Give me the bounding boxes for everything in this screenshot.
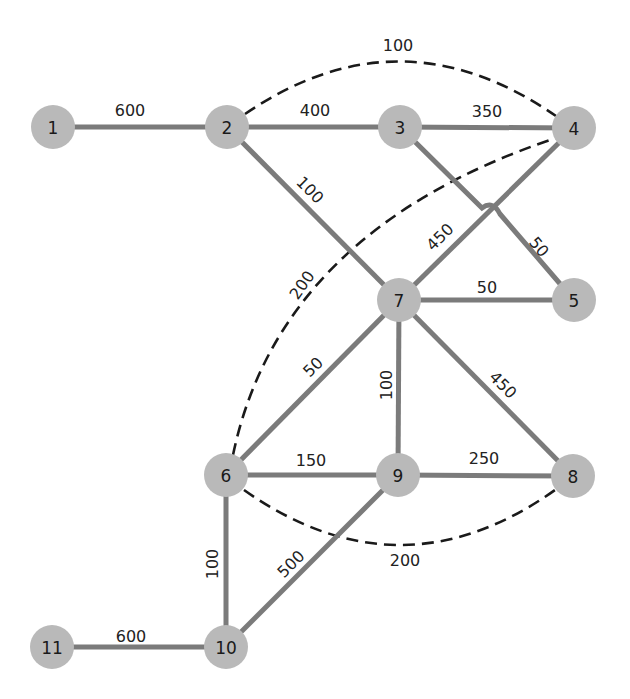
svg-text:10: 10	[215, 638, 237, 658]
weight-6-9: 150	[296, 451, 327, 470]
svg-text:7: 7	[394, 291, 405, 311]
node-6: 6	[204, 453, 248, 497]
node-10: 10	[204, 625, 248, 669]
weight-7-9: 100	[377, 370, 396, 401]
weight-2-7: 100	[292, 172, 327, 207]
weight-3-4: 350	[472, 102, 503, 121]
node-2: 2	[205, 105, 249, 149]
svg-text:1: 1	[48, 118, 59, 138]
weight-3-5: 50	[525, 233, 553, 261]
weight-dashed-6-4: 200	[285, 267, 318, 303]
weight-9-8: 250	[469, 449, 500, 468]
weight-dashed-6-8: 200	[390, 551, 421, 570]
node-3: 3	[378, 105, 422, 149]
weight-7-8: 450	[485, 367, 520, 402]
svg-text:11: 11	[41, 638, 63, 658]
svg-text:2: 2	[222, 118, 233, 138]
svg-text:4: 4	[569, 119, 580, 139]
svg-text:5: 5	[569, 291, 580, 311]
svg-text:9: 9	[393, 466, 404, 486]
svg-text:8: 8	[568, 467, 579, 487]
node-11: 11	[30, 625, 74, 669]
dashed-edge-6-8	[244, 490, 555, 545]
node-9: 9	[376, 453, 420, 497]
weight-11-10: 600	[116, 627, 147, 646]
weight-dashed-2-4: 100	[383, 36, 414, 55]
node-7: 7	[377, 278, 421, 322]
weight-9-10: 500	[273, 546, 308, 581]
edge-9-8	[398, 475, 573, 476]
weight-1-2: 600	[115, 101, 146, 120]
svg-text:3: 3	[395, 118, 406, 138]
weight-6-10: 100	[203, 549, 222, 580]
network-graph: 600 400 350 100 50 450 50 450 50 100 150…	[0, 0, 630, 699]
node-4: 4	[552, 106, 596, 150]
edge-7-9	[398, 300, 399, 475]
edge-3-4	[400, 127, 574, 128]
edge-9-10	[226, 475, 398, 647]
edge-7-6	[226, 300, 399, 475]
weight-2-3: 400	[300, 101, 331, 120]
node-5: 5	[552, 278, 596, 322]
weight-7-5: 50	[477, 278, 497, 297]
svg-text:6: 6	[221, 466, 232, 486]
node-8: 8	[551, 454, 595, 498]
node-1: 1	[31, 105, 75, 149]
